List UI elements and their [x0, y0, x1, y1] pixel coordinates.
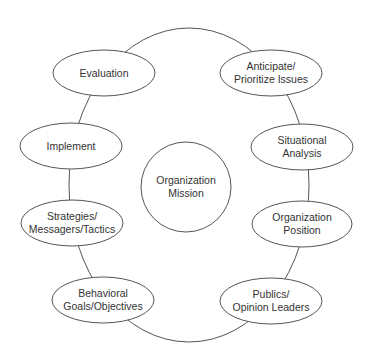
cycle-diagram	[0, 0, 370, 364]
node-implement-shape	[20, 123, 122, 169]
center-node-shape	[141, 142, 231, 232]
node-publics-shape	[220, 278, 322, 324]
node-behavioral-shape	[52, 277, 154, 323]
node-strategies-shape	[21, 200, 123, 246]
node-evaluation-shape	[53, 50, 155, 96]
node-situational-shape	[251, 124, 353, 170]
node-anticipate-shape	[220, 50, 322, 96]
node-position-shape	[252, 201, 352, 247]
